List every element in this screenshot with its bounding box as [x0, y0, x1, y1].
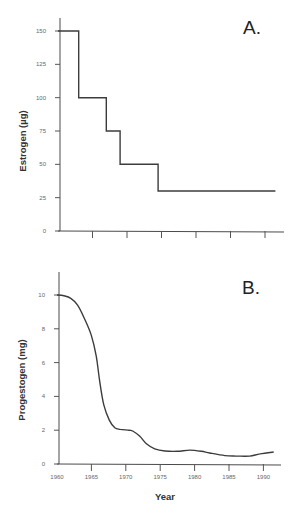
y-tick-label: 150 — [36, 28, 47, 34]
x-tick-label: 1980 — [188, 474, 202, 480]
x-tick-label: 1965 — [85, 474, 99, 480]
chart-a-x-axis — [58, 231, 284, 232]
chart-b-y-ticks: 0246810 — [38, 292, 59, 467]
chart-b-y-axis-title: Progestogen (mg) — [16, 339, 27, 420]
chart-a-series-estrogen — [58, 31, 275, 191]
y-tick-label: 6 — [42, 360, 46, 366]
chart-a: 0255075100125150 A. Estrogen (µg) — [17, 17, 284, 238]
chart-a-panel-label: A. — [243, 17, 261, 38]
x-tick-label: 1990 — [257, 474, 271, 480]
chart-b-x-axis-title: Year — [155, 491, 175, 502]
y-tick-label: 4 — [42, 393, 46, 399]
chart-b-x-ticks: 1960196519701975198019851990 — [50, 464, 270, 480]
chart-b: 0246810 1960196519701975198019851990 B. … — [16, 272, 281, 502]
y-tick-label: 0 — [42, 461, 46, 467]
x-tick-label: 1960 — [50, 474, 64, 480]
x-tick-label: 1970 — [119, 474, 133, 480]
y-tick-label: 0 — [43, 228, 47, 234]
x-tick-label: 1985 — [222, 474, 236, 480]
chart-b-series-progestogen — [57, 295, 274, 456]
x-tick-label: 1975 — [154, 474, 168, 480]
figure: 0255075100125150 A. Estrogen (µg) 024681… — [0, 0, 295, 515]
chart-a-y-ticks: 0255075100125150 — [36, 28, 60, 234]
y-tick-label: 25 — [39, 195, 46, 201]
y-tick-label: 8 — [42, 326, 46, 332]
chart-b-x-axis — [57, 464, 281, 465]
y-tick-label: 2 — [42, 427, 46, 433]
y-tick-label: 75 — [39, 128, 46, 134]
y-tick-label: 10 — [38, 292, 45, 298]
chart-a-y-axis-title: Estrogen (µg) — [17, 110, 28, 171]
y-tick-label: 100 — [36, 95, 47, 101]
y-tick-label: 125 — [36, 61, 47, 67]
y-tick-label: 50 — [39, 161, 46, 167]
chart-b-panel-label: B. — [242, 277, 260, 298]
